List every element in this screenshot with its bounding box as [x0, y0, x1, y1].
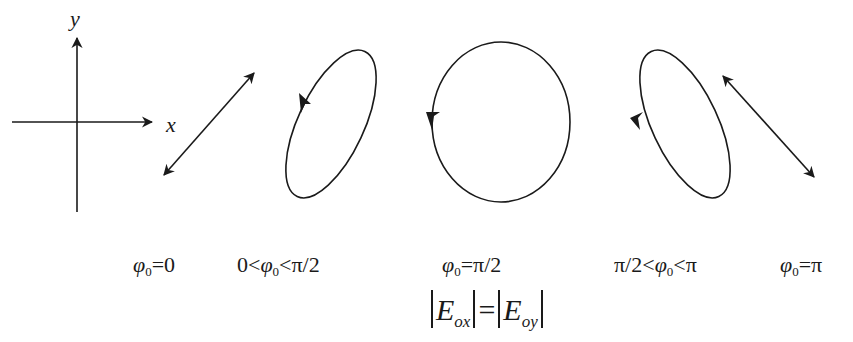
linear-polarization-up-arrow [164, 73, 254, 175]
abs-bar [431, 290, 433, 328]
polarization-diagram [0, 0, 853, 342]
abs-bar [541, 290, 543, 328]
elliptical-polarization-left-tilt [621, 38, 748, 211]
label-phi0-between-0-pi-half: 0<φ0<π/2 [237, 252, 320, 280]
rotation-arrowhead-icon [630, 112, 643, 130]
label-phi0-pi-half: φ0=π/2 [442, 252, 501, 280]
coordinate-axes [12, 38, 152, 212]
abs-bar [498, 290, 500, 328]
label-phi0-pi: φ0=π [780, 252, 822, 280]
elliptical-polarization-right-tilt [267, 38, 394, 211]
circular-polarization [426, 42, 570, 202]
label-phi0-between-pi-half-pi: π/2<φ0<π [614, 252, 697, 280]
label-phi0-zero: φ0=0 [133, 252, 175, 280]
linear-polarization-down-arrow [723, 76, 814, 177]
y-axis-label: y [70, 6, 80, 32]
abs-bar [473, 290, 475, 328]
x-axis-label: x [166, 112, 176, 138]
rotation-arrowhead-icon [426, 112, 440, 130]
amplitude-equality-formula: Eox=Eoy [428, 290, 546, 332]
